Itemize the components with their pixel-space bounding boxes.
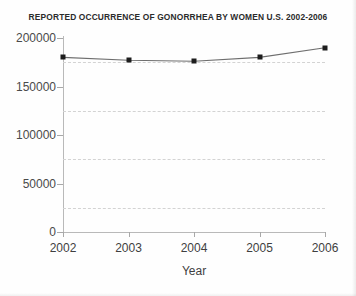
data-point-marker [126,58,131,63]
x-tick-mark [260,232,261,237]
y-tick-label: 200000 [16,32,56,44]
y-tick-label: 100000 [16,129,56,141]
x-axis-title: Year [63,264,325,278]
data-point-marker [192,59,197,64]
data-point-marker [61,55,66,60]
plot-area: 050000100000150000200000 200220032004200… [63,38,325,232]
x-tick-mark [325,232,326,237]
y-tick-label: 150000 [16,81,56,93]
x-tick-label: 2005 [246,242,273,254]
x-tick-mark [194,232,195,237]
x-tick-label: 2002 [50,242,77,254]
chart-title: REPORTED OCCURRENCE OF GONORRHEA BY WOME… [0,12,356,22]
data-point-marker [323,45,328,50]
y-tick-label: 50000 [23,178,56,190]
series-line [63,38,325,232]
x-tick-label: 2004 [181,242,208,254]
x-tick-label: 2003 [115,242,142,254]
chart-page: REPORTED OCCURRENCE OF GONORRHEA BY WOME… [0,0,356,296]
x-tick-label: 2006 [312,242,339,254]
scan-edge-right [352,0,356,296]
y-tick-label: 0 [49,226,56,238]
x-tick-mark [63,232,64,237]
data-point-marker [257,55,262,60]
x-tick-mark [129,232,130,237]
